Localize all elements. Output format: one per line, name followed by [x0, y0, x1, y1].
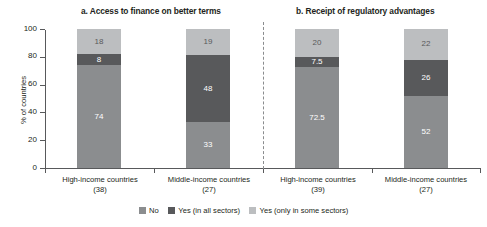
bar-value-label: 22	[404, 40, 448, 48]
legend-label-no: No	[149, 206, 159, 215]
x-label-a-high-income: High-income countries (38)	[44, 175, 156, 194]
bar-segment-yes-some[interactable]: 19	[186, 29, 230, 55]
bar-value-label: 48	[186, 85, 230, 93]
bar-a-high-income[interactable]: 18 8 74	[77, 29, 121, 168]
legend-swatch-yes-all	[168, 207, 175, 214]
y-tick-40: 40	[40, 112, 45, 113]
legend-label-yes-all: Yes (in all sectors)	[178, 206, 240, 215]
x-tick-a-right	[263, 169, 264, 173]
x-tick-b-right	[480, 169, 481, 173]
x-label-name: High-income countries	[280, 175, 356, 184]
bar-segment-yes-some[interactable]: 18	[77, 29, 121, 54]
x-label-a-middle-income: Middle-income countries (27)	[153, 175, 265, 194]
y-tick-label-0: 0	[33, 163, 37, 172]
legend-swatch-no	[139, 207, 146, 214]
panel-b-title: b. Receipt of regulatory advantages	[296, 6, 434, 16]
bar-value-label: 18	[77, 38, 121, 46]
panel-a-title: a. Access to finance on better terms	[81, 6, 221, 16]
bar-value-label: 20	[295, 39, 339, 47]
bar-segment-yes-all[interactable]: 26	[404, 60, 448, 96]
y-axis-title: % of countries	[19, 75, 28, 123]
y-axis-line	[45, 30, 46, 169]
x-tick-a-left	[45, 169, 46, 173]
x-label-name: Middle-income countries	[385, 175, 467, 184]
legend-item-yes-all[interactable]: Yes (in all sectors)	[168, 206, 240, 215]
y-tick-label-80: 80	[28, 51, 37, 60]
chart-plot-area: % of countries 0 20 40 60 80 100 18 8 74	[45, 30, 481, 169]
legend-label-yes-some: Yes (only in some sectors)	[260, 206, 349, 215]
bar-segment-yes-some[interactable]: 20	[295, 29, 339, 57]
bar-segment-no[interactable]: 33	[186, 122, 230, 168]
bar-value-label: 33	[186, 141, 230, 149]
x-label-count: (27)	[370, 185, 482, 195]
x-label-count: (38)	[44, 185, 156, 195]
bar-value-label: 19	[186, 38, 230, 46]
bar-value-label: 52	[404, 128, 448, 136]
bar-segment-yes-all[interactable]: 48	[186, 55, 230, 122]
y-tick-60: 60	[40, 85, 45, 86]
x-label-count: (39)	[262, 185, 374, 195]
y-tick-label-20: 20	[28, 135, 37, 144]
y-tick-label-40: 40	[28, 107, 37, 116]
bar-value-label: 26	[404, 74, 448, 82]
bar-value-label: 74	[77, 113, 121, 121]
bar-b-middle-income[interactable]: 22 26 52	[404, 29, 448, 168]
legend-swatch-yes-some	[249, 207, 256, 214]
bar-a-middle-income[interactable]: 19 48 33	[186, 29, 230, 168]
x-label-b-high-income: High-income countries (39)	[262, 175, 374, 194]
x-label-name: High-income countries	[62, 175, 138, 184]
bar-segment-yes-all[interactable]: 7.5	[295, 57, 339, 67]
bar-segment-yes-some[interactable]: 22	[404, 29, 448, 60]
bar-segment-no[interactable]: 52	[404, 96, 448, 168]
legend-item-no[interactable]: No	[139, 206, 159, 215]
bar-value-label: 72.5	[295, 114, 339, 122]
panel-divider	[263, 22, 264, 169]
legend-item-yes-some[interactable]: Yes (only in some sectors)	[249, 206, 348, 215]
bar-segment-yes-all[interactable]: 8	[77, 54, 121, 65]
y-tick-label-60: 60	[28, 79, 37, 88]
chart-legend: No Yes (in all sectors) Yes (only in som…	[0, 206, 487, 215]
y-tick-20: 20	[40, 140, 45, 141]
bar-segment-no[interactable]: 72.5	[295, 67, 339, 168]
panel-titles: a. Access to finance on better terms b. …	[0, 6, 487, 22]
x-label-count: (27)	[153, 185, 265, 195]
bar-value-label: 8	[77, 56, 121, 64]
y-tick-100: 100	[40, 29, 45, 30]
bar-segment-no[interactable]: 74	[77, 65, 121, 168]
x-label-b-middle-income: Middle-income countries (27)	[370, 175, 482, 194]
x-label-name: Middle-income countries	[168, 175, 250, 184]
y-tick-label-100: 100	[24, 24, 37, 33]
x-tick-b-mid	[372, 169, 373, 173]
bar-b-high-income[interactable]: 20 7.5 72.5	[295, 29, 339, 168]
y-tick-80: 80	[40, 57, 45, 58]
x-tick-a-mid	[154, 169, 155, 173]
bar-value-label: 7.5	[295, 58, 339, 66]
